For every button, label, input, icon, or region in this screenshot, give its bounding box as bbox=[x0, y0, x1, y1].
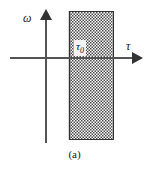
hatched-region bbox=[69, 11, 114, 140]
figure-caption: (a) bbox=[0, 148, 149, 160]
tau-zero-subscript: 0 bbox=[80, 46, 84, 55]
figure-container: ω τ τ0 (a) bbox=[0, 0, 149, 173]
tau-zero-region-label: τ0 bbox=[74, 40, 86, 56]
omega-axis-label: ω bbox=[23, 12, 31, 24]
tau-axis-label: τ bbox=[126, 40, 130, 52]
